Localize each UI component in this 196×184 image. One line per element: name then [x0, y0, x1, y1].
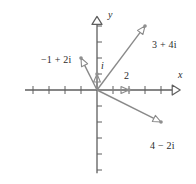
data-point-0 [143, 24, 147, 28]
x-axis-label: x [178, 70, 182, 80]
vector-label-3-plus-4i: 3 + 4i [152, 40, 177, 50]
data-point-2 [159, 120, 163, 124]
vector-label-4-minus-2i: 4 − 2i [150, 141, 175, 151]
complex-plane-plot [0, 0, 196, 184]
vector-shaft-2 [97, 90, 154, 118]
data-point-3 [95, 72, 99, 76]
vector-label-minus-1-plus-2i: −1 + 2i [41, 55, 71, 65]
data-point-4 [127, 88, 131, 92]
data-point-1 [79, 56, 83, 60]
y-axis-arrowhead [92, 16, 102, 24]
x-axis-arrowhead [172, 85, 180, 95]
vector-label-2: 2 [124, 71, 129, 81]
vector-label-i: i [101, 61, 104, 71]
argand-diagram-figure: x y 3 + 4i −1 + 2i 4 − 2i i 2 [0, 0, 196, 184]
y-axis-label: y [108, 10, 112, 20]
